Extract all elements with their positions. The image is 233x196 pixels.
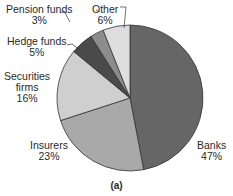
label-banks-pct: 47% <box>197 151 226 162</box>
chart-caption: (a) <box>0 180 233 191</box>
label-securities-firms: Securities firms 16% <box>4 71 50 104</box>
label-pension-funds-pct: 3% <box>6 15 73 26</box>
label-insurers-pct: 23% <box>30 151 68 162</box>
label-other-pct: 6% <box>92 15 118 26</box>
pie-slice-banks <box>130 25 203 170</box>
label-banks: Banks 47% <box>197 140 226 162</box>
label-hedge-funds: Hedge funds 5% <box>7 36 67 58</box>
label-securities-pct: 16% <box>4 93 50 104</box>
label-hedge-funds-pct: 5% <box>7 47 67 58</box>
label-insurers: Insurers 23% <box>30 140 68 162</box>
label-other: Other 6% <box>92 4 118 26</box>
label-pension-funds: Pension funds 3% <box>6 4 73 26</box>
